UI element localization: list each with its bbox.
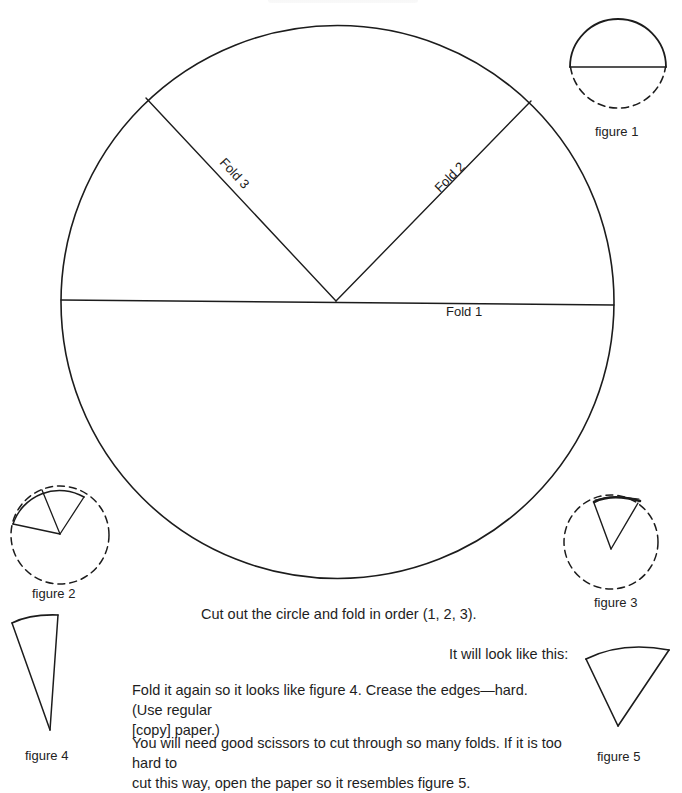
fold-2-line (336, 101, 531, 301)
instruction-step-3-line-2: cut this way, open the paper so it resem… (132, 773, 572, 793)
fold-2-label: Fold 2 (432, 159, 468, 195)
figure-1-diagram (570, 19, 666, 108)
instruction-step-2: Fold it again so it looks like figure 4.… (132, 680, 562, 740)
figure-2-diagram (11, 486, 109, 584)
instruction-step-3: You will need good scissors to cut throu… (132, 733, 572, 793)
figure-2-caption: figure 2 (32, 586, 75, 601)
figure-4-diagram (12, 615, 58, 730)
fold-1-line (61, 300, 614, 305)
instruction-step-1: Cut out the circle and fold in order (1,… (201, 604, 477, 624)
figure-4-caption: figure 4 (25, 748, 68, 763)
main-circle (61, 26, 614, 579)
fold-3-line (146, 98, 336, 301)
figure-5-caption: figure 5 (597, 749, 640, 764)
fold-1-label: Fold 1 (446, 304, 482, 319)
instruction-step-2-line-1: Fold it again so it looks like figure 4.… (132, 680, 562, 720)
figure-3-caption: figure 3 (594, 595, 637, 610)
figure-1-caption: figure 1 (595, 124, 638, 139)
fold-3-label: Fold 3 (217, 155, 253, 192)
instruction-look-like: It will look like this: (449, 644, 568, 664)
figure-3-diagram (564, 495, 658, 589)
instruction-step-3-line-1: You will need good scissors to cut throu… (132, 733, 572, 773)
figure-5-diagram (586, 647, 669, 726)
